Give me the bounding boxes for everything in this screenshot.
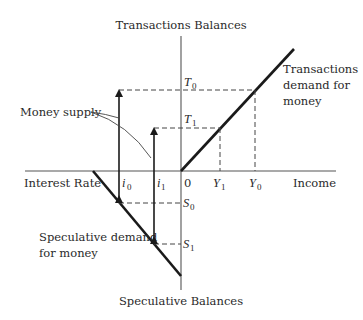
svg-text:T: T bbox=[184, 75, 192, 89]
svg-text:S: S bbox=[183, 237, 190, 251]
svg-text:i: i bbox=[122, 176, 126, 190]
svg-text:0: 0 bbox=[192, 81, 197, 91]
svg-text:S: S bbox=[183, 196, 190, 210]
svg-text:0: 0 bbox=[257, 182, 262, 192]
tick-i0: i0 bbox=[122, 176, 132, 192]
tick-t1: T1 bbox=[184, 112, 197, 128]
tick-s0: S0 bbox=[183, 196, 195, 212]
svg-text:T: T bbox=[184, 112, 192, 126]
speculative-demand-label-line1: Speculative demand bbox=[39, 230, 158, 244]
tick-s1: S1 bbox=[183, 237, 195, 253]
transactions-demand-label-line1: Transactions bbox=[283, 62, 358, 76]
money-supply-label: Money supply bbox=[20, 105, 102, 119]
svg-text:0: 0 bbox=[127, 182, 132, 192]
money-demand-diagram: Transactions Balances Speculative Balanc… bbox=[0, 0, 363, 320]
svg-text:1: 1 bbox=[190, 243, 195, 253]
transactions-demand-line bbox=[181, 49, 294, 171]
tick-y0: Y0 bbox=[249, 176, 262, 192]
svg-text:1: 1 bbox=[192, 118, 197, 128]
speculative-demand-line bbox=[93, 171, 181, 276]
axis-title-speculative-balances: Speculative Balances bbox=[119, 294, 243, 308]
axis-title-interest-rate: Interest Rate bbox=[24, 176, 101, 190]
tick-i1: i1 bbox=[157, 176, 166, 192]
origin-label: 0 bbox=[184, 176, 191, 190]
axis-title-transactions-balances: Transactions Balances bbox=[115, 18, 246, 32]
svg-text:1: 1 bbox=[161, 182, 166, 192]
tick-y1: Y1 bbox=[213, 176, 226, 192]
transactions-demand-label-line3: money bbox=[283, 94, 322, 108]
speculative-demand-label-line2: for money bbox=[39, 246, 98, 260]
svg-text:0: 0 bbox=[190, 202, 195, 212]
svg-text:1: 1 bbox=[221, 182, 226, 192]
tick-t0: T0 bbox=[184, 75, 197, 91]
transactions-demand-label-line2: demand for bbox=[283, 78, 351, 92]
axis-title-income: Income bbox=[293, 176, 336, 190]
